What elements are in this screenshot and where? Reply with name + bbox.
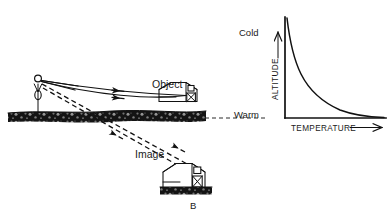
chart-xlabel: TEMPERATURE — [291, 124, 356, 133]
mirage-figure: Object Image B ALTITUDE TEMPERATURE Cold… — [0, 0, 392, 220]
barn-image-window — [194, 167, 201, 174]
barn-object-window — [188, 86, 194, 92]
chart-curve — [287, 18, 384, 118]
ground-lower — [160, 187, 212, 195]
ray-arrow-lower — [112, 97, 124, 98]
temperature-altitude-chart: ALTITUDE TEMPERATURE Cold Warm — [234, 17, 386, 133]
ground-texture-lower — [160, 187, 212, 195]
figure-canvas: Object Image B ALTITUDE TEMPERATURE Cold… — [0, 0, 392, 220]
chart-annotation-warm: Warm — [234, 109, 259, 120]
barn-mirage-image — [163, 164, 205, 189]
chart-annotation-cold: Cold — [239, 27, 259, 38]
ray-arrow-upper — [112, 90, 124, 91]
mirage-scene: Object Image B — [8, 75, 212, 211]
observer — [34, 75, 42, 113]
label-panel: B — [190, 200, 196, 211]
label-image: Image — [135, 148, 164, 160]
apparent-ray-arrow-lower — [172, 145, 185, 152]
observer-head — [35, 75, 42, 82]
label-object: Object — [152, 78, 182, 90]
chart-ylabel: ALTITUDE — [271, 58, 280, 100]
apparent-ray-arrow-upper — [110, 132, 123, 139]
